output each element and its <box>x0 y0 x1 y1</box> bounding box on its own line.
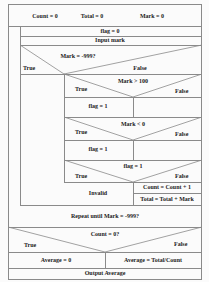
decision4-false-action-1: Count = Count + 1 <box>143 184 191 191</box>
decision1-false-label: False <box>133 65 146 72</box>
decision3-true-action: flag = 1 <box>88 146 107 153</box>
decision3-false-label: False <box>175 131 188 138</box>
decision4-true-action: Invalid <box>89 190 107 197</box>
divider <box>20 205 202 206</box>
final-decision-true-label: True <box>24 242 36 249</box>
decision1-condition: Mark = -999? <box>60 53 95 60</box>
divider <box>105 252 106 268</box>
decision2-true-action: flag = 1 <box>88 103 107 110</box>
divider <box>133 193 202 194</box>
divider <box>133 97 134 117</box>
decision2-true-label: True <box>75 86 87 93</box>
decision4-condition: flag = 1 <box>123 163 142 170</box>
divider <box>8 26 202 27</box>
decision2-false-label: False <box>175 88 188 95</box>
divider <box>133 140 134 160</box>
input-step: Input mark <box>95 37 125 44</box>
set-flag-step: flag = 0 <box>100 28 119 35</box>
divider <box>64 160 202 161</box>
decision1-true-label: True <box>23 65 35 72</box>
final-true-action: Average = 0 <box>41 257 71 264</box>
final-false-action: Average = Total/Count <box>124 257 182 264</box>
decision4-false-action-2: Total = Total + Mark <box>140 196 194 203</box>
divider <box>8 227 202 228</box>
decision4-true-label: True <box>75 173 87 180</box>
decision4-false-label: False <box>175 173 188 180</box>
divider <box>8 268 202 269</box>
loop-until-condition: Repeat until Mark = -999? <box>71 213 139 220</box>
divider <box>64 74 65 182</box>
output-step: Output Average <box>85 270 126 277</box>
divider <box>64 117 202 118</box>
final-decision-false-label: False <box>174 241 187 248</box>
decision2-condition: Mark > 100 <box>118 78 148 85</box>
final-decision-condition: Count = 0? <box>91 231 119 238</box>
divider <box>20 45 202 46</box>
decision3-condition: Mark < 0 <box>121 121 145 128</box>
init-total: Total = 0 <box>81 13 104 20</box>
decision3-true-label: True <box>75 129 87 136</box>
init-mark: Mark = 0 <box>140 13 164 20</box>
loop-bar <box>20 26 21 205</box>
init-count: Count = 0 <box>32 13 57 20</box>
divider <box>20 74 202 75</box>
